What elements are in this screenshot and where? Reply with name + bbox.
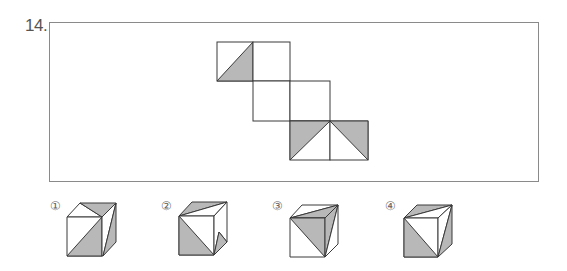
net-face-top-right: [253, 42, 290, 81]
option-3-cube[interactable]: [290, 205, 338, 257]
net-face-top-left: [217, 42, 253, 81]
option-1-cube[interactable]: [67, 203, 116, 256]
net-face-bottom-right: [330, 121, 368, 160]
option-3-label[interactable]: ③: [272, 199, 283, 213]
option-2-cube[interactable]: [179, 202, 227, 255]
net-face-bottom-left: [290, 121, 330, 160]
net-face-middle-right: [290, 81, 330, 121]
option-4-cube[interactable]: [404, 205, 452, 257]
option-1-label[interactable]: ①: [50, 199, 61, 213]
option-2-label[interactable]: ②: [161, 199, 172, 213]
option-4-label[interactable]: ④: [385, 199, 396, 213]
figure-canvas: [0, 0, 567, 271]
cube-net: [217, 42, 368, 160]
net-face-middle-left: [253, 81, 290, 121]
